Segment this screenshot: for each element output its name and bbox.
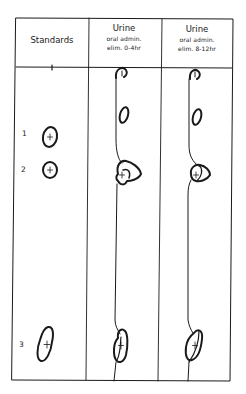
- column-divider-1: [86, 18, 89, 380]
- column-subtitle-admin: oral admin.: [88, 34, 160, 43]
- chromatogram-drawing: [0, 0, 246, 394]
- column-title: Urine: [88, 23, 160, 34]
- column-subtitle-elim: elim. 8-12hr: [161, 44, 233, 53]
- standard-label-3: 3: [19, 340, 24, 349]
- column-header-standards: Standards: [16, 35, 88, 46]
- standard-spot-3: [38, 327, 53, 361]
- chromatogram-figure: Standards Urine oral admin. elim. 0-4hr …: [0, 0, 246, 394]
- column-subtitle-elim: elim. 0-4hr: [88, 43, 160, 52]
- column-header-urine-0-4hr: Urine oral admin. elim. 0-4hr: [88, 23, 160, 52]
- column-subtitle-admin: oral admin.: [161, 35, 233, 44]
- column-title: Urine: [161, 24, 233, 35]
- standard-label-2: 2: [21, 165, 26, 174]
- lane-urine-8-12hr: [186, 70, 210, 381]
- standard-label-1: 1: [22, 129, 27, 138]
- column-divider-2: [158, 19, 162, 381]
- column-title: Standards: [16, 35, 88, 46]
- column-header-urine-8-12hr: Urine oral admin. elim. 8-12hr: [161, 24, 233, 53]
- lane-urine-0-4hr: [114, 68, 141, 381]
